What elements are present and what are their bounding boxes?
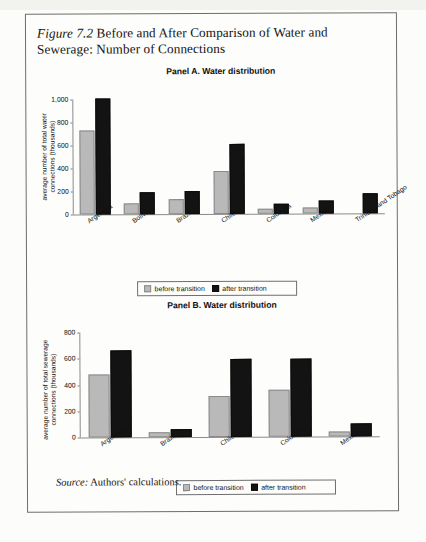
y-tick-mark: [77, 333, 80, 334]
y-tick-mark: [77, 438, 80, 439]
y-tick-label: 1,000: [36, 96, 68, 103]
y-tick-mark: [77, 385, 80, 386]
scanned-page: Figure 7.2 Before and After Comparison o…: [0, 0, 426, 542]
legend-swatch-before-icon: [144, 285, 151, 292]
panel-b: Panel B. Water distribution average numb…: [27, 291, 400, 503]
legend-label-before: before transition: [193, 484, 243, 491]
bar-before-chile: [208, 396, 229, 437]
y-tick-mark: [70, 192, 73, 193]
y-axis-line: [72, 100, 74, 215]
y-tick-label: 800: [36, 119, 68, 126]
source-label: Source:: [56, 477, 88, 488]
y-tick-label: 600: [43, 355, 75, 362]
panel-a: Panel A. Water distribution average numb…: [26, 65, 399, 307]
bar-after-chile: [230, 359, 251, 437]
y-tick-mark: [70, 169, 73, 170]
bar-after-argentina: [95, 98, 111, 214]
bar-after-chile: [229, 144, 244, 214]
legend-swatch-after-icon: [212, 285, 219, 292]
x-category-label: Trinidad and Tobago: [354, 183, 408, 223]
panel-a-y-axis-label: average number of total water connection…: [40, 97, 57, 217]
legend-swatch-after-icon: [251, 484, 258, 491]
panel-a-title: Panel A. Water distribution: [166, 66, 275, 76]
y-tick-label: 400: [44, 381, 76, 388]
bar-after-argentina: [110, 350, 131, 437]
legend-label-after: after transition: [261, 484, 305, 491]
figure-number: Figure 7.2: [37, 26, 93, 41]
y-tick-mark: [77, 411, 80, 412]
y-tick-label: 200: [44, 407, 76, 414]
bar-before-argentina: [79, 131, 94, 215]
y-tick-label: 600: [36, 142, 68, 149]
panel-a-plot-area: 02004006008001,000ArgentinaBoliviaBrazil…: [72, 98, 384, 214]
source-note: Source: Authors' calculations.: [56, 476, 181, 488]
source-text: Authors' calculations.: [88, 476, 181, 487]
figure-frame: Figure 7.2 Before and After Comparison o…: [25, 12, 399, 513]
scan-edge-artifact: [0, 0, 426, 10]
figure-title: Figure 7.2 Before and After Comparison o…: [37, 24, 382, 57]
y-tick-label: 400: [37, 165, 69, 172]
bar-before-brazil: [169, 199, 184, 214]
bar-before-argentina: [88, 374, 109, 437]
legend-item-before: before transition: [183, 484, 244, 491]
y-tick-mark: [77, 359, 80, 360]
y-tick-mark: [70, 215, 73, 216]
panel-b-title: Panel B. Water distribution: [167, 300, 277, 310]
bar-before-chile: [213, 171, 228, 214]
y-tick-mark: [70, 123, 73, 124]
panel-b-plot-area: 0200400600800ArgentinaBrazilChileColombi…: [79, 331, 379, 437]
y-tick-label: 800: [43, 329, 75, 336]
y-tick-label: 0: [37, 211, 69, 218]
legend-swatch-before-icon: [183, 484, 190, 491]
y-tick-mark: [70, 100, 73, 101]
bar-before-colombia: [268, 390, 289, 437]
y-tick-label: 0: [44, 434, 76, 441]
y-tick-label: 200: [37, 188, 69, 195]
panel-b-legend: before transition after transition: [176, 479, 336, 495]
legend-item-after: after transition: [251, 484, 306, 491]
y-tick-mark: [70, 146, 73, 147]
